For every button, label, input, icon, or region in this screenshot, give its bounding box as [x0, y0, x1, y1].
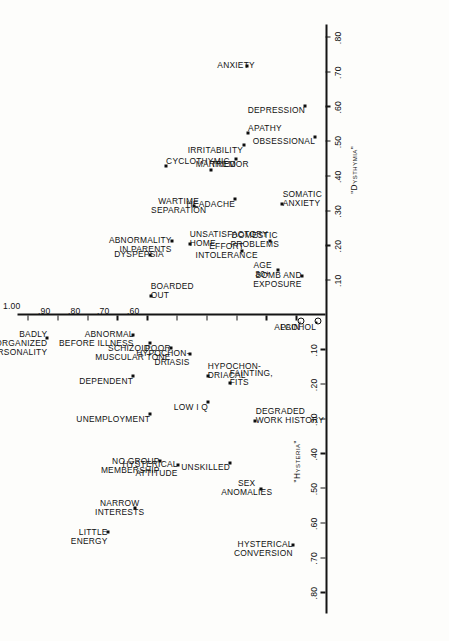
- x-ticklabel-right-40: .40: [332, 167, 342, 185]
- x-tick-right-10: [325, 279, 330, 280]
- x-tick-right-70: [325, 71, 330, 72]
- x-tick-left-10: [320, 348, 325, 349]
- data-point-label: UNSKILLED: [110, 463, 230, 472]
- x-tick-left-40: [320, 452, 325, 453]
- x-ticklabel-left-10: .10: [308, 341, 318, 359]
- data-point-label: APATHY: [248, 123, 368, 132]
- x-tick-right-40: [325, 175, 330, 176]
- axis-title-dysthymia: "Dysthymia": [348, 145, 358, 193]
- y-tick-60: [146, 315, 147, 320]
- data-point-label: OBSESSIONAL: [195, 137, 315, 146]
- x-ticklabel-right-60: .60: [332, 98, 342, 116]
- data-point-label: UNEMPLOYMENT: [29, 414, 149, 423]
- scatter-plot-area: .10.20.30.40.50.60.70.80.10.20.30.40.50.…: [0, 0, 449, 641]
- data-point-label: LITTLE ENERGY: [0, 528, 107, 546]
- y-ticklabel-70: .70: [97, 305, 110, 315]
- data-point-label: IRRITABILITY: [123, 145, 243, 154]
- y-tick-10: [295, 315, 296, 320]
- x-tick-right-20: [325, 244, 330, 245]
- data-point-label: DEPENDENT: [13, 376, 133, 385]
- data-point-label: MARRIED: [116, 159, 236, 168]
- data-point-label: HYSTERICAL CONVERSION: [172, 540, 292, 558]
- x-tick-left-60: [320, 522, 325, 523]
- x-ticklabel-right-20: .20: [332, 237, 342, 255]
- axis-title-hysteria: "Hysteria": [291, 439, 301, 482]
- data-point-label: HYPOCHON- DRIASIS: [69, 349, 189, 367]
- y-tick-30: [236, 315, 237, 320]
- y-ticklabel-100: 1.00: [2, 300, 20, 310]
- horizontal-axis-line: [325, 24, 327, 614]
- x-ticklabel-right-80: .80: [332, 28, 342, 46]
- y-tick-40: [206, 315, 207, 320]
- data-point-label: DEPRESSION: [184, 105, 304, 114]
- data-point-label: HEADACHE: [114, 199, 234, 208]
- x-tick-right-80: [325, 36, 330, 37]
- x-ticklabel-right-50: .50: [332, 133, 342, 151]
- data-point-label: FAINTING, FITS: [230, 368, 350, 386]
- x-ticklabel-right-10: .10: [332, 271, 342, 289]
- y-ticklabel-90: .90: [37, 305, 50, 315]
- y-tick-80: [87, 315, 88, 320]
- x-tick-right-30: [325, 210, 330, 211]
- x-tick-right-60: [325, 105, 330, 106]
- x-ticklabel-left-50: .50: [308, 480, 318, 498]
- data-point-label: ALCOHOL: [196, 322, 316, 331]
- data-point-label: ANXIETY: [175, 61, 295, 70]
- data-point-label: DEGRADED WORK HISTORY: [255, 407, 375, 425]
- x-ticklabel-left-70: .70: [308, 549, 318, 567]
- y-tick-20: [265, 315, 266, 320]
- x-ticklabel-left-80: .80: [308, 584, 318, 602]
- y-tick-70: [116, 315, 117, 320]
- y-ticklabel-60: .60: [127, 305, 140, 315]
- x-ticklabel-left-40: .40: [308, 445, 318, 463]
- y-tick-50: [176, 315, 177, 320]
- x-tick-left-50: [320, 487, 325, 488]
- data-point-label: SEX ANOMALIES: [186, 479, 306, 497]
- data-point-label: BOMB AND EXPOSURE: [181, 271, 301, 289]
- x-tick-left-80: [320, 591, 325, 592]
- data-point-label: SOMATIC ANXIETY: [282, 190, 402, 208]
- x-ticklabel-right-70: .70: [332, 63, 342, 81]
- y-ticklabel-80: .80: [67, 305, 80, 315]
- data-point-label: NARROW INTERESTS: [59, 498, 179, 516]
- x-tick-left-70: [320, 557, 325, 558]
- x-tick-right-50: [325, 140, 330, 141]
- x-ticklabel-left-60: .60: [308, 514, 318, 532]
- y-tick-90: [57, 315, 58, 320]
- y-tick-100: [27, 315, 28, 320]
- figure-canvas: .10.20.30.40.50.60.70.80.10.20.30.40.50.…: [0, 0, 449, 641]
- data-point-label: ABNORMALITY IN PARENTS: [52, 236, 172, 254]
- data-point-label: DOMESTIC PROBLEMS: [195, 231, 315, 249]
- vertical-axis-line: [17, 313, 325, 315]
- data-point-label: LOW I Q: [87, 402, 207, 411]
